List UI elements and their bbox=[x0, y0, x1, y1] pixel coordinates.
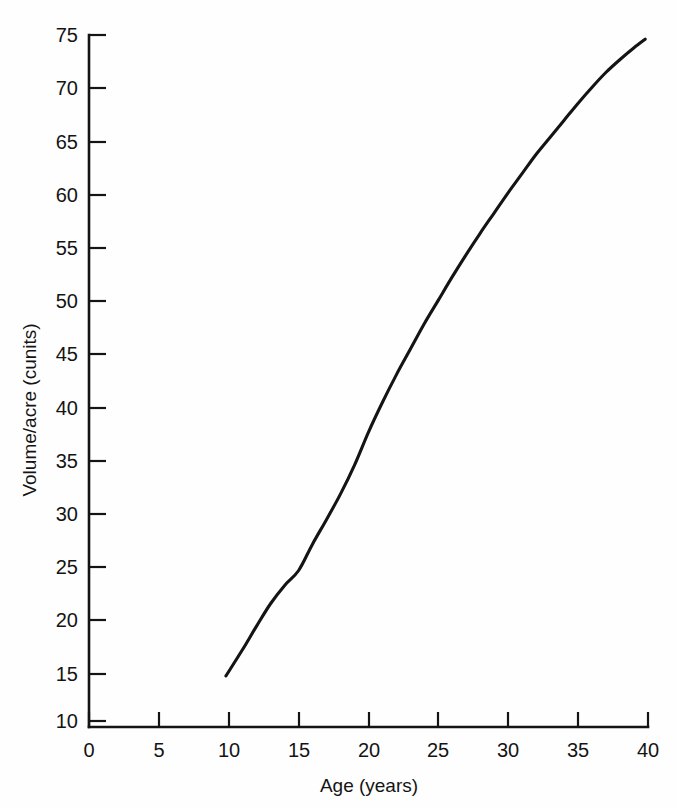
y-tick-label: 75 bbox=[56, 24, 78, 46]
y-tick-label: 20 bbox=[56, 609, 78, 631]
y-tick-label: 60 bbox=[56, 184, 78, 206]
y-axis-title: Volume/acre (cunits) bbox=[19, 323, 40, 496]
y-tick-label: 45 bbox=[56, 343, 78, 365]
x-tick-label: 0 bbox=[83, 739, 94, 761]
y-tick-label: 15 bbox=[56, 663, 78, 685]
y-tick-label: 10 bbox=[56, 710, 78, 732]
y-tick-label: 70 bbox=[56, 77, 78, 99]
y-tick-labels: 75 70 65 60 55 50 45 40 35 30 25 20 15 1… bbox=[56, 24, 78, 732]
x-axis-title: Age (years) bbox=[320, 775, 418, 796]
line-chart: 75 70 65 60 55 50 45 40 35 30 25 20 15 1… bbox=[0, 0, 678, 808]
x-tick-label: 40 bbox=[637, 739, 659, 761]
x-tick-label: 10 bbox=[218, 739, 240, 761]
chart-figure: 75 70 65 60 55 50 45 40 35 30 25 20 15 1… bbox=[0, 0, 678, 808]
x-tick-marks bbox=[89, 712, 648, 727]
x-tick-label: 20 bbox=[358, 739, 380, 761]
y-tick-label: 25 bbox=[56, 556, 78, 578]
axes-group bbox=[89, 35, 648, 727]
y-tick-label: 30 bbox=[56, 503, 78, 525]
x-tick-label: 5 bbox=[153, 739, 164, 761]
x-tick-label: 35 bbox=[567, 739, 589, 761]
y-tick-marks bbox=[89, 35, 106, 721]
y-tick-label: 50 bbox=[56, 290, 78, 312]
y-tick-label: 55 bbox=[56, 237, 78, 259]
data-curve-volume-per-acre bbox=[226, 39, 645, 676]
x-tick-label: 25 bbox=[427, 739, 449, 761]
y-tick-label: 35 bbox=[56, 450, 78, 472]
y-tick-label: 40 bbox=[56, 397, 78, 419]
y-tick-label: 65 bbox=[56, 131, 78, 153]
x-tick-label: 30 bbox=[497, 739, 519, 761]
x-tick-label: 15 bbox=[288, 739, 310, 761]
x-tick-labels: 0 5 10 15 20 25 30 35 40 bbox=[83, 739, 659, 761]
